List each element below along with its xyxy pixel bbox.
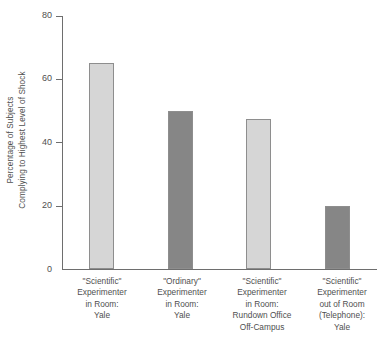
bar-2	[246, 119, 271, 269]
category-label-0: "Scientific" Experimenter in Room: Yale	[62, 276, 142, 352]
bar-0	[89, 63, 114, 269]
bar-chart: Percentage of Subjects Complying to High…	[0, 0, 387, 352]
category-label-1: "Ordinary" Experimenter in Room: Yale	[142, 276, 222, 352]
x-axis-category-labels: "Scientific" Experimenter in Room: Yale …	[62, 276, 382, 352]
bar-3	[325, 206, 350, 269]
bar-1	[168, 111, 193, 269]
category-label-3: "Scientific" Experimenter out of Room (T…	[302, 276, 382, 352]
category-label-2: "Scientific" Experimenter in Room: Rundo…	[222, 276, 302, 352]
